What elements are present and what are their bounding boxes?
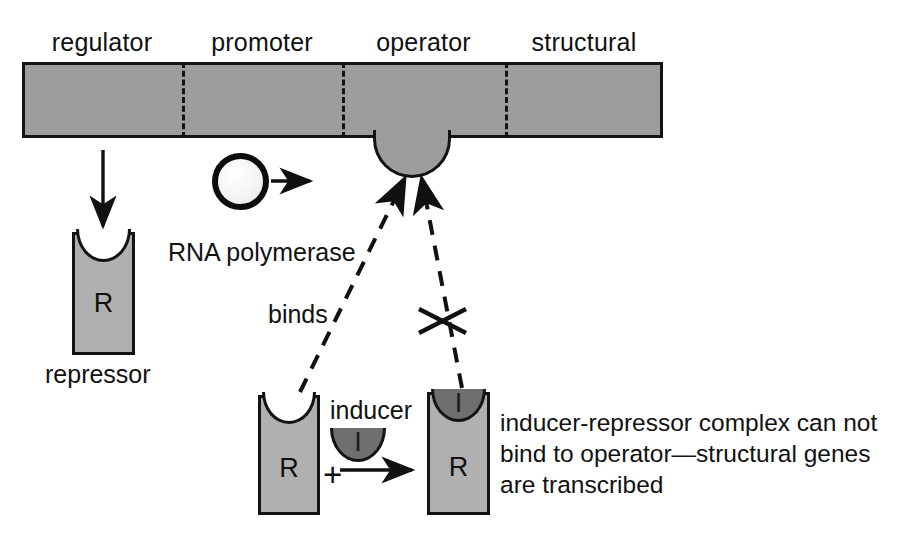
outcome-text-line-2: bind to operator—structural genes (500, 439, 870, 470)
inducer-repressor-complex: I R (427, 392, 490, 515)
complex-repressor-glyph: R (427, 452, 490, 483)
segment-label-promoter: promoter (182, 28, 342, 57)
plus-sign: + (323, 458, 342, 491)
inducer-glyph: I (330, 427, 386, 458)
outcome-text-line-3: are transcribed (500, 470, 663, 501)
rna-polymerase-icon (212, 153, 269, 210)
no-bind-cross-icon (419, 309, 466, 333)
dna-divider-operator-structural (505, 62, 508, 138)
complex-inducer-glyph: I (427, 388, 490, 419)
dashed-arrow-repressor-binds-operator (300, 180, 404, 392)
diagram-canvas: regulator promoter operator structural R… (0, 0, 916, 545)
dna-divider-promoter-operator (342, 62, 345, 138)
dna-bar (22, 62, 663, 138)
dashed-arrow-complex-to-operator (422, 180, 462, 388)
operator-knob-shape (373, 130, 451, 178)
inducer-label: inducer (330, 396, 412, 425)
outcome-text-line-1: inducer-repressor complex can not (500, 408, 877, 439)
repressor-glyph-bottom: R (258, 453, 320, 484)
segment-label-operator: operator (342, 28, 505, 57)
dna-divider-regulator-promoter (182, 62, 185, 138)
operator-knob-joint (377, 127, 447, 137)
repressor-shape: R (72, 232, 135, 355)
repressor-shape-bottom: R (258, 395, 320, 515)
operator-binding-knob (373, 130, 451, 178)
repressor-glyph: R (72, 288, 135, 319)
segment-label-structural: structural (505, 28, 663, 57)
rna-polymerase-label: RNA polymerase (168, 238, 356, 267)
repressor-label: repressor (45, 360, 151, 389)
segment-label-regulator: regulator (22, 28, 182, 57)
binds-label: binds (268, 300, 328, 329)
